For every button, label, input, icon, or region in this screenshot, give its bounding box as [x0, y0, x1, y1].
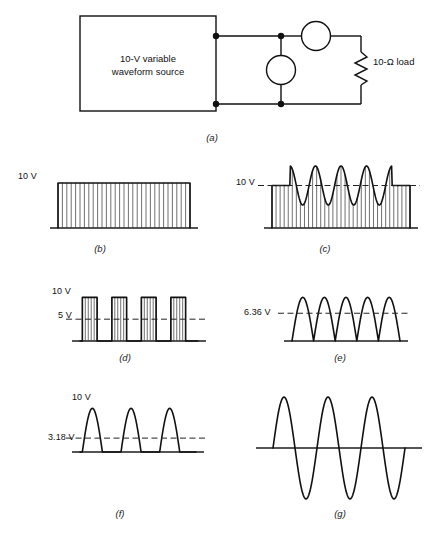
series-meter-icon — [302, 22, 331, 51]
source-label-line1: 10-V variable — [80, 52, 216, 65]
panel-c-plot — [232, 152, 437, 240]
panel-c: 10 V — [232, 152, 437, 240]
caption-c: (c) — [305, 243, 345, 254]
waveform-trace — [80, 408, 196, 452]
caption-e: (e) — [320, 352, 360, 363]
panel-d: 10 V 5 V — [48, 283, 218, 351]
panel-f: 10 V 3.18 V — [48, 392, 220, 464]
panel-f-label-avg: 3.18 V — [48, 432, 75, 442]
panel-e-plot — [244, 283, 429, 351]
figure-root: 10-V variable waveform source 10-Ω load … — [0, 0, 439, 533]
panel-d-plot — [48, 283, 218, 351]
panel-b: 10 V — [12, 160, 212, 240]
caption-a: (a) — [192, 132, 232, 143]
caption-g: (g) — [320, 508, 360, 519]
panel-d-label-10v: 10 V — [52, 286, 71, 296]
panel-c-label-10v: 10 V — [236, 177, 255, 187]
shunt-meter-icon — [267, 56, 296, 85]
load-label: 10-Ω load — [373, 56, 414, 67]
panel-b-plot — [12, 160, 212, 240]
panel-f-label-10v: 10 V — [72, 392, 91, 402]
panel-g-plot — [244, 388, 434, 506]
panel-b-label-10v: 10 V — [18, 171, 37, 181]
resistor-icon — [355, 52, 367, 85]
caption-b: (b) — [80, 243, 120, 254]
panel-e-label-avg: 6.36 V — [244, 307, 271, 317]
source-label-line2: waveform source — [80, 65, 216, 78]
panel-circuit: 10-V variable waveform source 10-Ω load — [0, 0, 439, 130]
panel-g — [244, 388, 434, 506]
panel-e: 6.36 V — [244, 283, 429, 351]
caption-d: (d) — [105, 352, 145, 363]
panel-d-label-5v: 5 V — [58, 310, 72, 320]
waveform-trace — [292, 297, 400, 341]
source-label: 10-V variable waveform source — [80, 52, 216, 78]
caption-f: (f) — [100, 508, 140, 519]
panel-f-plot — [48, 392, 220, 464]
